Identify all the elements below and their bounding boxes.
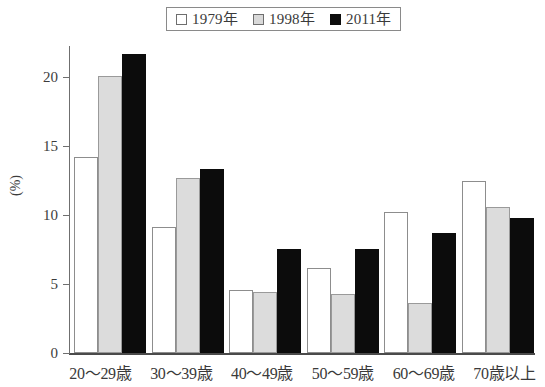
legend-label-2011: 2011年 bbox=[346, 12, 391, 27]
bar-group-60-69 bbox=[380, 46, 458, 353]
bar-2011-70-plus bbox=[510, 218, 534, 353]
chart-legend: 1979年 1998年 2011年 bbox=[166, 7, 401, 31]
bar-1998-30-39 bbox=[176, 178, 200, 353]
x-label-20-29: 20〜29歳 bbox=[60, 360, 141, 384]
x-label-40-49: 40〜49歳 bbox=[222, 360, 303, 384]
x-label-30-39: 30〜39歳 bbox=[141, 360, 222, 384]
y-tick-label-20: 20 bbox=[43, 69, 58, 86]
y-tick-label-15: 15 bbox=[43, 138, 58, 155]
bar-1979-20-29 bbox=[74, 157, 98, 353]
y-tick-label-10: 10 bbox=[43, 207, 58, 224]
gray-square-icon bbox=[253, 14, 264, 25]
legend-label-1998: 1998年 bbox=[269, 12, 315, 27]
bar-1998-60-69 bbox=[408, 303, 432, 353]
legend-item-1979: 1979年 bbox=[176, 12, 238, 27]
legend-item-2011: 2011年 bbox=[330, 12, 391, 27]
x-label-60-69: 60〜69歳 bbox=[383, 360, 464, 384]
bar-group-20-29 bbox=[70, 46, 148, 353]
bar-2011-40-49 bbox=[277, 249, 301, 353]
legend-item-1998: 1998年 bbox=[253, 12, 315, 27]
black-square-icon bbox=[330, 14, 341, 25]
bar-group-70-plus bbox=[458, 46, 536, 353]
bar-1979-40-49 bbox=[229, 290, 253, 353]
bar-1979-30-39 bbox=[152, 227, 176, 353]
y-tick-label-0: 0 bbox=[51, 345, 59, 362]
white-square-icon bbox=[176, 14, 187, 25]
bar-group-30-39 bbox=[148, 46, 226, 353]
y-tick-label-5: 5 bbox=[51, 276, 59, 293]
bar-chart: 1979年 1998年 2011年 (%) 0 5 10 15 20 bbox=[0, 0, 545, 387]
y-tick-20: 20 bbox=[63, 77, 70, 78]
bar-group-50-59 bbox=[303, 46, 381, 353]
x-label-70-plus: 70歳以上 bbox=[464, 360, 545, 384]
bar-2011-20-29 bbox=[122, 54, 146, 353]
y-tick-0: 0 bbox=[63, 353, 70, 354]
legend-label-1979: 1979年 bbox=[192, 12, 238, 27]
y-tick-5: 5 bbox=[63, 284, 70, 285]
bar-1998-50-59 bbox=[331, 294, 355, 353]
plot-area: 0 5 10 15 20 bbox=[69, 46, 535, 355]
bar-1998-20-29 bbox=[98, 76, 122, 353]
bar-1979-70-plus bbox=[462, 181, 486, 353]
bar-1998-70-plus bbox=[486, 207, 510, 353]
x-label-50-59: 50〜59歳 bbox=[302, 360, 383, 384]
x-axis-labels: 20〜29歳 30〜39歳 40〜49歳 50〜59歳 60〜69歳 70歳以上 bbox=[60, 360, 545, 384]
bar-2011-30-39 bbox=[200, 169, 224, 353]
bar-1979-50-59 bbox=[307, 268, 331, 353]
bar-2011-50-59 bbox=[355, 249, 379, 353]
y-tick-15: 15 bbox=[63, 146, 70, 147]
bar-group-40-49 bbox=[225, 46, 303, 353]
y-tick-10: 10 bbox=[63, 215, 70, 216]
y-axis-title: (%) bbox=[8, 175, 24, 196]
bar-1979-60-69 bbox=[384, 212, 408, 353]
bar-groups bbox=[70, 46, 535, 353]
bar-1998-40-49 bbox=[253, 292, 277, 353]
x-axis-line bbox=[69, 353, 535, 355]
bar-2011-60-69 bbox=[432, 233, 456, 353]
